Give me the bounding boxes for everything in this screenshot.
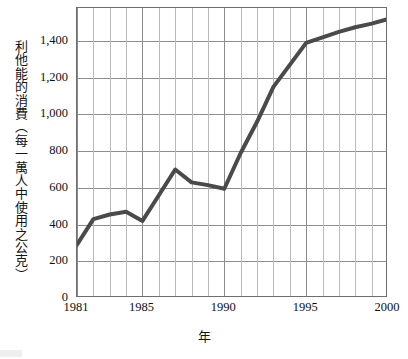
x-tick-label: 1985	[129, 300, 154, 315]
line-series-svg	[77, 8, 387, 297]
y-tick-label: 800	[49, 143, 68, 158]
y-tick-label: 200	[49, 253, 68, 268]
x-tick-label: 2000	[375, 300, 400, 315]
y-tick-label: 600	[49, 179, 68, 194]
y-tick-label: 1,400	[40, 33, 68, 48]
line-series-path	[77, 19, 387, 245]
plot-area	[76, 7, 387, 297]
y-tick-label: 1,200	[40, 69, 68, 84]
y-tick-label: 400	[49, 216, 68, 231]
x-axis-title: 年	[0, 326, 408, 345]
x-axis-tick-labels: 19811985199019952000	[0, 300, 408, 320]
x-tick-label: 1981	[64, 300, 89, 315]
x-tick-label: 1990	[211, 300, 236, 315]
y-tick-label: 1,000	[40, 106, 68, 121]
scan-artifact	[0, 350, 22, 357]
x-tick-label: 1995	[293, 300, 318, 315]
y-axis-title: 利他能的消費（每一萬人中使用之公克）	[2, 18, 28, 303]
chart-figure: 利他能的消費（每一萬人中使用之公克） 02004006008001,0001,2…	[0, 0, 408, 359]
